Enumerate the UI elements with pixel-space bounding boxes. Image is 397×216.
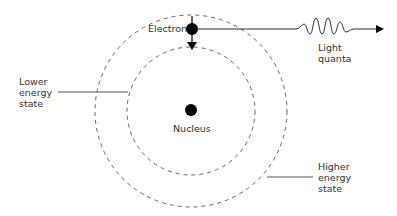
higher-line3: state [318,183,351,194]
higher-line2: energy [318,172,351,183]
light-quanta-line2: quanta [318,53,351,64]
light-quanta-line1: Light [318,42,351,53]
lower-energy-state-label: Lower energy state [19,76,52,109]
electron-label: Electron [148,23,187,34]
higher-line1: Higher [318,161,351,172]
light-wave [296,18,376,34]
light-arrowhead [376,25,384,33]
light-quanta-label: Light quanta [318,42,351,64]
nucleus-dot [185,104,197,116]
lower-line2: energy [19,87,52,98]
nucleus-label: Nucleus [173,123,211,134]
lower-line1: Lower [19,76,52,87]
higher-energy-state-label: Higher energy state [318,161,351,194]
lower-line3: state [19,98,52,109]
electron-drop-arrowhead [187,42,197,50]
